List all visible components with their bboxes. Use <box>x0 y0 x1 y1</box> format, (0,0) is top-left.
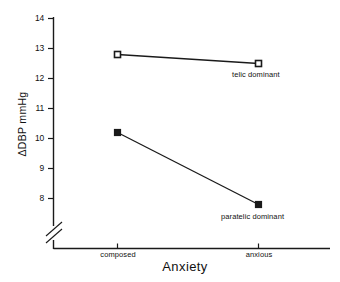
data-point-telic-anxious <box>256 61 262 67</box>
data-point-paratelic-composed <box>115 130 121 136</box>
chart-figure: 14 13 12 11 10 9 8 composed anxious ΔDBP… <box>0 0 340 282</box>
series-line-paratelic <box>118 133 259 205</box>
series-line-telic <box>118 55 259 64</box>
y-tick-label-9: 9 <box>28 164 44 173</box>
data-point-paratelic-anxious <box>256 202 262 208</box>
x-tick-label-composed: composed <box>88 250 148 259</box>
y-tick-label-8: 8 <box>28 194 44 203</box>
y-tick-label-12: 12 <box>28 74 44 83</box>
data-point-telic-composed <box>115 52 121 58</box>
y-tick-label-13: 13 <box>28 44 44 53</box>
x-tick-label-anxious: anxious <box>230 250 288 259</box>
series-label-paratelic: paratelic dominant <box>221 212 284 221</box>
y-axis-title: ΔDBP mmHg <box>16 69 28 179</box>
chart-plot-area <box>0 0 340 282</box>
y-tick-label-14: 14 <box>28 14 44 23</box>
y-tick-label-11: 11 <box>28 104 44 113</box>
series-label-telic: telic dominant <box>232 70 280 79</box>
x-axis-title: Anxiety <box>120 259 250 274</box>
y-tick-label-10: 10 <box>28 134 44 143</box>
